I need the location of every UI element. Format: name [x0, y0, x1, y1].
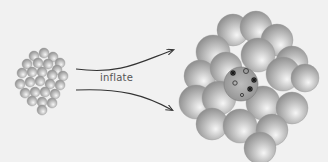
- curved-arrow: [76, 50, 173, 71]
- small-sphere: [55, 80, 65, 90]
- small-sphere: [35, 76, 45, 86]
- small-sphere: [50, 89, 60, 99]
- small-sphere: [47, 98, 57, 108]
- small-sphere: [37, 105, 47, 115]
- small-sphere: [20, 88, 30, 98]
- center-sphere-with-marks: [224, 67, 258, 101]
- small-sphere: [47, 70, 57, 80]
- large-sphere: [291, 64, 319, 92]
- small-sphere: [37, 67, 47, 77]
- inflate-diagram-canvas: [0, 0, 328, 162]
- small-sphere: [15, 79, 25, 89]
- small-sphere: [40, 87, 50, 97]
- small-sphere: [58, 71, 68, 81]
- star-mark-icon: [251, 77, 257, 83]
- small-sphere: [27, 96, 37, 106]
- small-sphere: [27, 67, 37, 77]
- small-sphere: [30, 87, 40, 97]
- small-sphere-cluster: [15, 48, 68, 115]
- star-mark-icon: [230, 70, 236, 76]
- small-sphere: [39, 48, 49, 58]
- large-sphere: [244, 132, 276, 162]
- inflate-label: inflate: [100, 72, 133, 83]
- star-mark-icon: [247, 86, 253, 92]
- small-sphere: [17, 68, 27, 78]
- curved-arrow: [76, 90, 172, 110]
- small-sphere: [33, 58, 43, 68]
- small-sphere: [25, 77, 35, 87]
